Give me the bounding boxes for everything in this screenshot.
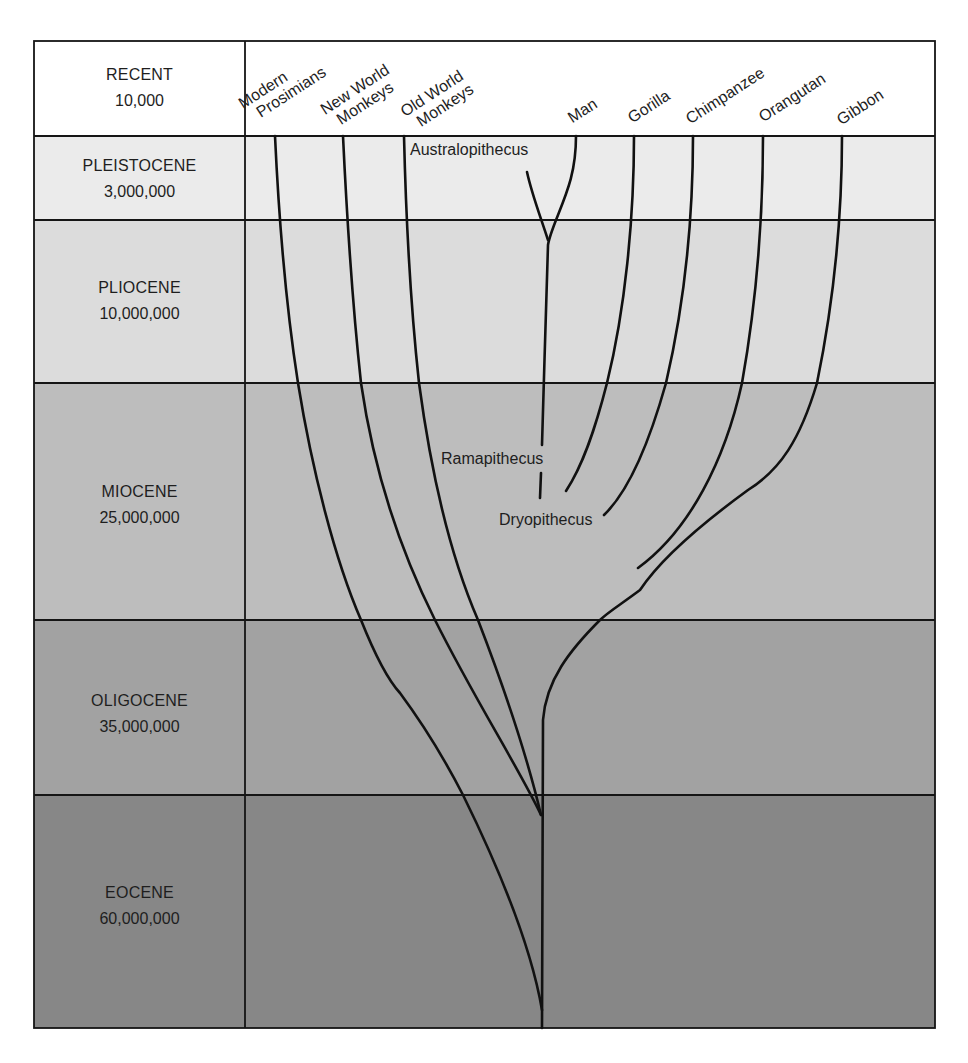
branch-australopithecus: [527, 172, 548, 240]
epoch-name: MIOCENE: [34, 479, 245, 505]
epoch-name: PLEISTOCENE: [34, 153, 245, 179]
epoch-label-miocene: MIOCENE 25,000,000: [34, 479, 245, 531]
epoch-name: EOCENE: [34, 880, 245, 906]
epoch-label-recent: RECENT 10,000: [34, 62, 245, 114]
fossil-label-ramapithecus: Ramapithecus: [441, 450, 543, 468]
epoch-years: 60,000,000: [34, 906, 245, 932]
epoch-label-eocene: EOCENE 60,000,000: [34, 880, 245, 932]
epoch-name: OLIGOCENE: [34, 688, 245, 714]
branch-orangutan: [638, 136, 763, 568]
branch-chimpanzee: [604, 136, 693, 515]
epoch-name: PLIOCENE: [34, 275, 245, 301]
fossil-label-dryopithecus: Dryopithecus: [499, 511, 592, 529]
epoch-name: RECENT: [34, 62, 245, 88]
epoch-label-pliocene: PLIOCENE 10,000,000: [34, 275, 245, 327]
epoch-years: 10,000,000: [34, 301, 245, 327]
epoch-years: 25,000,000: [34, 505, 245, 531]
epoch-label-pleistocene: PLEISTOCENE 3,000,000: [34, 153, 245, 205]
branch-old-world: [404, 136, 541, 815]
branch-gorilla: [566, 136, 634, 491]
epoch-label-oligocene: OLIGOCENE 35,000,000: [34, 688, 245, 740]
branch-gibbon: [542, 136, 842, 1028]
branch-man: [542, 136, 576, 445]
fossil-label-australopithecus: Australopithecus: [410, 141, 528, 159]
epoch-years: 3,000,000: [34, 179, 245, 205]
epoch-years: 35,000,000: [34, 714, 245, 740]
branch-ramapithecus: [540, 473, 541, 498]
primate-evolution-diagram: RECENT 10,000 PLEISTOCENE 3,000,000 PLIO…: [0, 0, 968, 1063]
epoch-years: 10,000: [34, 88, 245, 114]
